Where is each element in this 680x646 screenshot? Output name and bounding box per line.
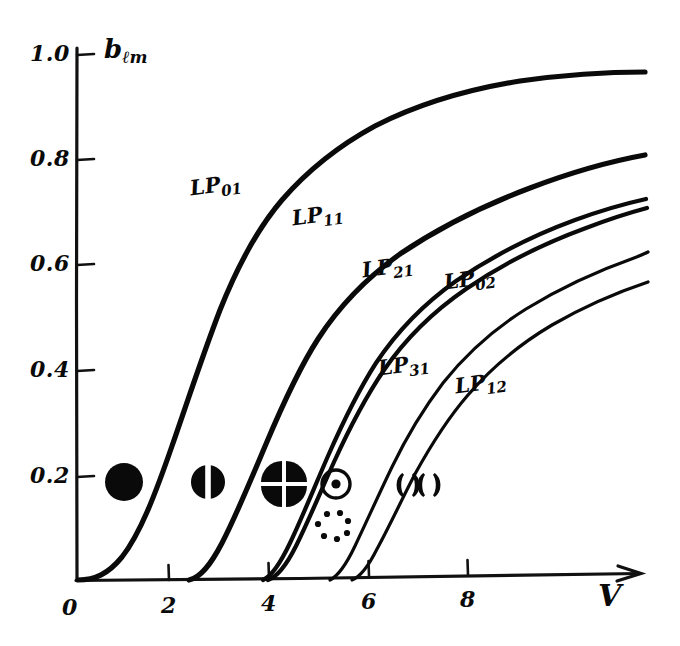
y-tick-label-0.6: 0.6: [30, 250, 70, 276]
curve-label-lp01-name: LP: [188, 171, 222, 200]
y-tick-0.4: [77, 370, 94, 371]
y-axis-title: bℓm: [104, 34, 147, 68]
x-tick-label-4: 4: [261, 590, 277, 616]
x-tick-8: [468, 560, 469, 575]
curve-label-lp02-name: LP: [442, 265, 476, 294]
mode-icon-lp02-outer-pattern: [315, 510, 351, 542]
curve-label-lp11-name: LP: [290, 201, 324, 230]
curve-label-lp01-subscript: 01: [220, 179, 243, 200]
curve-label-lp02-subscript: 02: [474, 273, 497, 294]
curve-label-lp11-subscript: 11: [322, 209, 345, 230]
curve-label-lp12-subscript: 12: [485, 377, 508, 398]
y-axis-title-main: b: [104, 34, 122, 64]
x-tick-label-2: 2: [161, 592, 177, 618]
x-tick-2: [169, 565, 170, 580]
curve-lp01: [78, 72, 645, 580]
mode-icon-lp01-pattern: [105, 463, 143, 501]
mode-icon-lp21-pattern: [261, 461, 307, 507]
curve-label-lp12-name: LP: [453, 369, 487, 398]
x-tick-label-0: 0: [62, 594, 78, 620]
mode-icon-lp11-pattern: [191, 465, 225, 499]
y-axis: [77, 48, 78, 580]
y-tick-label-0.2: 0.2: [30, 462, 70, 488]
y-tick-0.6: [77, 264, 94, 265]
x-tick-label-6: 6: [361, 588, 377, 614]
y-tick-1.0: [77, 54, 94, 55]
y-tick-label-0.8: 0.8: [30, 145, 70, 171]
figure-canvas: bℓm V 1.0 0.8 0.6 0.4 0.2 0 2 4 6 8 LP01…: [0, 0, 680, 646]
y-tick-label-0.4: 0.4: [30, 356, 70, 382]
y-axis-title-subscript: ℓm: [122, 47, 147, 67]
x-tick-label-8: 8: [460, 586, 476, 612]
curve-label-lp21-subscript: 21: [392, 261, 415, 282]
x-axis-title: V: [598, 578, 621, 613]
plot-svg: [0, 0, 680, 646]
y-tick-0.2: [77, 476, 94, 477]
curve-label-lp31-name: LP: [376, 351, 410, 380]
curve-label-lp21-name: LP: [360, 253, 394, 282]
curve-label-lp31-subscript: 31: [408, 359, 431, 380]
y-tick-label-1.0: 1.0: [30, 40, 70, 66]
y-tick-0.8: [77, 159, 94, 160]
